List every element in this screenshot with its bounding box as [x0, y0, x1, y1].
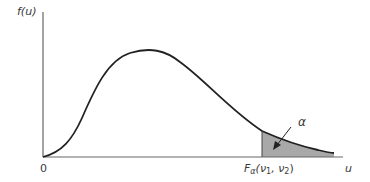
- f-distribution-chart: f(u) u 0 α Fα(ν1, ν2): [0, 0, 370, 182]
- y-axis-label: f(u): [17, 5, 36, 18]
- origin-label: 0: [40, 162, 47, 175]
- density-curve: [43, 50, 334, 157]
- critical-value-label: Fα(ν1, ν2): [244, 162, 294, 176]
- alpha-label: α: [298, 115, 306, 129]
- x-axis-label: u: [345, 162, 352, 175]
